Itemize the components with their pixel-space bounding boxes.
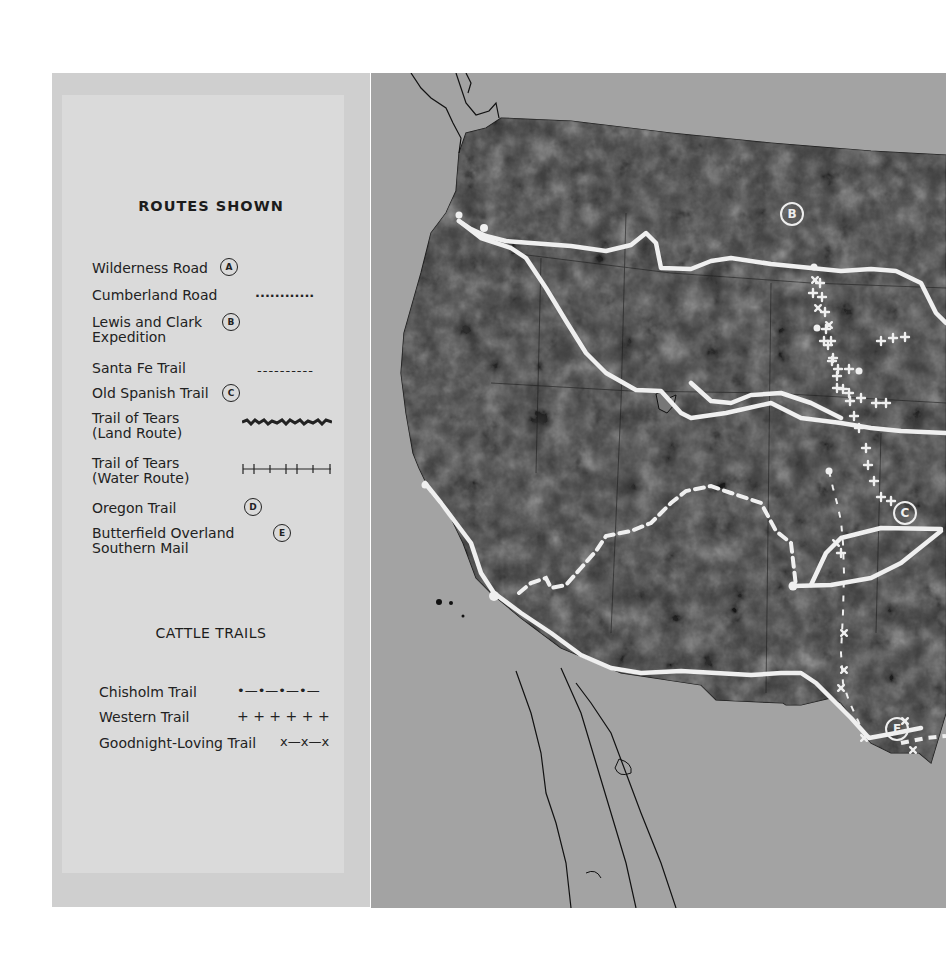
legend-item-goodnight-loving-trail: Goodnight-Loving Trail [99,736,256,751]
dashed-line-icon: ---------- [257,363,314,378]
legend-label: Old Spanish Trail [92,385,209,401]
legend-label: Cumberland Road [92,287,217,303]
map-graphic [371,73,946,908]
legend-label-line2: Expedition [92,330,202,345]
legend-item-trail-of-tears-land: Trail of Tears (Land Route) [92,411,182,441]
legend-item-butterfield-overland: Butterfield Overland Southern Mail [92,526,234,556]
legend-item-chisholm-trail: Chisholm Trail [99,685,197,700]
x-dash-line-icon: x—x—x [280,734,329,749]
cattle-trails-title: CATTLE TRAILS [52,625,370,641]
legend-panel: ROUTES SHOWN Wilderness Road A Cumberlan… [52,73,370,907]
legend-label: Trail of Tears [92,456,189,471]
tick-line-icon [242,463,332,475]
legend-label: Trail of Tears [92,411,182,426]
legend-item-santa-fe-trail: Santa Fe Trail [92,361,186,376]
legend-label: Goodnight-Loving Trail [99,735,256,751]
circle-b-icon: B [222,313,240,331]
plus-line-icon: + + + + + + [237,708,330,724]
map-marker-e: E [885,717,909,741]
circle-e-icon: E [273,524,291,542]
legend-item-wilderness-road: Wilderness Road [92,261,208,276]
legend-label: Lewis and Clark [92,315,202,330]
rough-line-icon [242,418,332,426]
routes-shown-title: ROUTES SHOWN [52,198,370,214]
legend-label: Butterfield Overland [92,526,234,541]
circle-d-icon: D [244,498,262,516]
legend-item-oregon-trail: Oregon Trail [92,501,176,516]
legend-label-line2: (Land Route) [92,426,182,441]
dotted-line-icon: ............ [255,285,314,300]
legend-label-line2: (Water Route) [92,471,189,486]
trails-map: B C E [371,73,946,908]
map-marker-b: B [780,202,804,226]
legend-label: Chisholm Trail [99,684,197,700]
dot-dash-line-icon: •—•—•—•— [237,683,320,698]
legend-label: Santa Fe Trail [92,360,186,376]
legend-item-old-spanish-trail: Old Spanish Trail [92,386,209,401]
legend-label: Wilderness Road [92,260,208,276]
legend-item-lewis-and-clark: Lewis and Clark Expedition [92,315,202,345]
legend-label-line2: Southern Mail [92,541,234,556]
legend-item-cumberland-road: Cumberland Road [92,288,217,303]
circle-c-icon: C [222,384,240,402]
legend-label: Oregon Trail [92,500,176,516]
legend-label: Western Trail [99,709,189,725]
legend-item-western-trail: Western Trail [99,710,189,725]
circle-a-icon: A [220,258,238,276]
legend-item-trail-of-tears-water: Trail of Tears (Water Route) [92,456,189,486]
map-marker-c: C [893,501,917,525]
